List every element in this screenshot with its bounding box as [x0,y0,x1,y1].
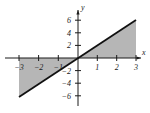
y-tick-label--4: −4 [62,79,71,88]
y-tick-label--2: −2 [62,67,71,76]
x-tick-label-1: 1 [95,63,99,72]
x-tick-label-2: 2 [115,63,119,72]
x-tick-label--2: −2 [34,63,43,72]
y-tick-label-2: 2 [67,41,71,50]
y-tick-label-6: 6 [67,16,71,25]
y-axis-label: y [80,3,85,12]
x-axis-label: x [141,48,146,57]
graph-figure: −3 −2 −1 1 2 3 6 4 2 −2 −4 −6 y x [0,0,150,113]
x-tick-label--3: −3 [14,63,23,72]
y-tick-label--6: −6 [62,92,71,101]
y-tick-label-4: 4 [67,29,71,38]
x-tick-label-3: 3 [133,63,138,72]
coordinate-plane-svg: −3 −2 −1 1 2 3 6 4 2 −2 −4 −6 y x [0,0,150,113]
